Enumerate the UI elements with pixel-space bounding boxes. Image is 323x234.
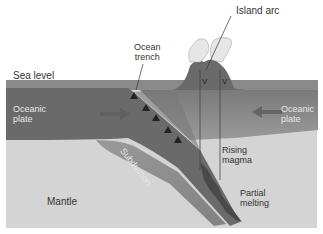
label-rising-magma: Rising magma: [222, 145, 252, 165]
label-oceanic-plate-left: Oceanic plate: [13, 104, 46, 124]
label-oceanic-plate-right: Oceanic plate: [281, 104, 314, 124]
label-sea-level: Sea level: [13, 71, 54, 81]
label-island-arc: Island arc: [236, 6, 279, 16]
label-partial-melting: Partial melting: [240, 188, 269, 208]
ash-cloud-icon: [189, 39, 209, 62]
label-ocean-trench: Ocean trench: [134, 42, 161, 62]
subduction-diagram: Island arc Ocean trench Sea level Oceani…: [0, 0, 323, 234]
label-mantle: Mantle: [47, 197, 77, 207]
ash-cloud-icon: [210, 37, 231, 62]
vent-glyph: V: [202, 77, 207, 87]
vent-glyph: V: [222, 77, 227, 87]
